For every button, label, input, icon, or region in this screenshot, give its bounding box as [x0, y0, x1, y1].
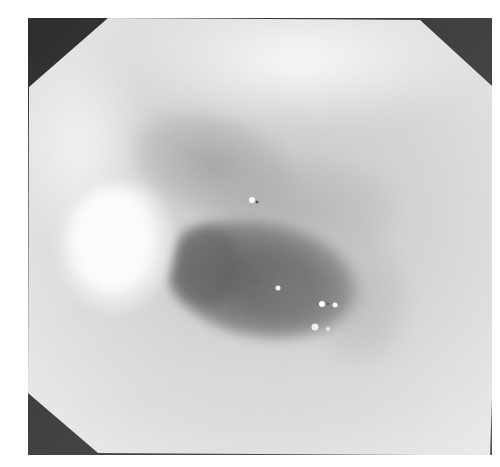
grain-overlay — [0, 0, 500, 467]
endoscopy-photo — [0, 0, 500, 467]
endoscopic-image — [0, 0, 500, 467]
